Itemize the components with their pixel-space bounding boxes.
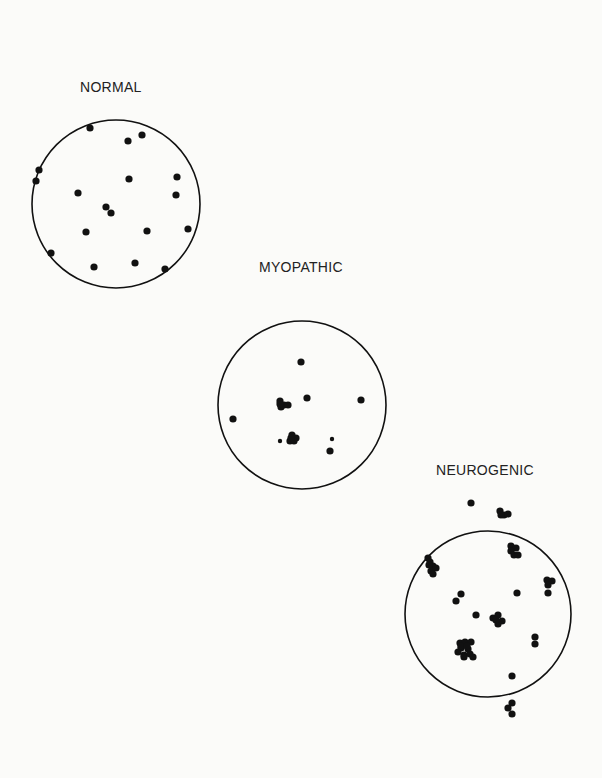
- fiber-dot: [161, 265, 168, 272]
- fiber-dot: [131, 259, 138, 266]
- figure-canvas: NORMALMYOPATHICNEUROGENIC: [0, 0, 602, 778]
- fiber-dot: [492, 616, 499, 623]
- fiber-dot: [508, 710, 515, 717]
- fiber-dot-small: [330, 437, 334, 441]
- fiber-dot: [497, 511, 504, 518]
- fiber-dot: [508, 672, 515, 679]
- fiber-dot: [229, 415, 236, 422]
- panel-label-normal: NORMAL: [80, 79, 142, 95]
- fiber-dot-small: [278, 439, 282, 443]
- fiber-dot: [125, 175, 132, 182]
- fiber-dot: [303, 394, 310, 401]
- fiber-dot: [544, 581, 551, 588]
- fiber-dot: [452, 597, 459, 604]
- fiber-dot: [82, 228, 89, 235]
- fiber-dot: [326, 447, 333, 454]
- fiber-dot: [504, 510, 511, 517]
- fiber-dot: [184, 225, 191, 232]
- fiber-dot: [457, 590, 464, 597]
- fiber-dot: [172, 191, 179, 198]
- fiber-dot: [102, 203, 109, 210]
- fiber-dot: [504, 704, 511, 711]
- fiber-dot: [276, 400, 283, 407]
- fiber-dot: [460, 653, 467, 660]
- fiber-dot: [35, 166, 42, 173]
- boundary-circle-normal: [32, 120, 200, 288]
- fiber-dot: [74, 189, 81, 196]
- fiber-dot: [507, 547, 514, 554]
- fiber-dot: [544, 589, 551, 596]
- fiber-dot: [531, 640, 538, 647]
- fiber-dot: [513, 589, 520, 596]
- fiber-dot: [467, 499, 474, 506]
- fiber-dot: [124, 137, 131, 144]
- panel-label-myopathic: MYOPATHIC: [259, 259, 343, 275]
- fiber-dot: [284, 401, 291, 408]
- panel-label-neurogenic: NEUROGENIC: [436, 462, 534, 478]
- fiber-dot: [86, 124, 93, 131]
- fiber-dot: [469, 653, 476, 660]
- fiber-dot: [47, 249, 54, 256]
- fiber-dot: [138, 131, 145, 138]
- fiber-dot: [514, 551, 521, 558]
- fiber-dot: [425, 561, 432, 568]
- panel-neurogenic: NEUROGENIC: [405, 462, 571, 718]
- fiber-dot: [429, 570, 436, 577]
- fiber-dot: [173, 173, 180, 180]
- fiber-dot: [297, 358, 304, 365]
- boundary-circle-myopathic: [218, 321, 386, 489]
- fiber-dot: [287, 434, 294, 441]
- fiber-dot: [90, 263, 97, 270]
- panel-normal: NORMAL: [32, 79, 200, 288]
- fiber-dot: [107, 209, 114, 216]
- fiber-dot: [531, 633, 538, 640]
- fiber-dot: [357, 396, 364, 403]
- fiber-dot: [472, 611, 479, 618]
- fiber-dot: [463, 642, 470, 649]
- panel-myopathic: MYOPATHIC: [218, 259, 386, 489]
- fiber-dot: [32, 177, 39, 184]
- fiber-dot: [143, 227, 150, 234]
